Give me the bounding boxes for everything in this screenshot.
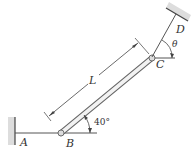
angle-arc-theta [162, 40, 172, 58]
label-d: D [175, 23, 185, 36]
label-angle-b: 40° [94, 117, 110, 127]
wall-support-a [8, 117, 15, 145]
pin-c [149, 55, 155, 61]
label-length: L [88, 74, 96, 87]
cable-cd [152, 14, 176, 57]
label-theta: θ [172, 39, 178, 49]
label-c: C [156, 58, 165, 71]
diagram-canvas: A B C D θ L 40° [0, 0, 195, 155]
dimension-l [44, 38, 149, 121]
label-a: A [19, 136, 28, 149]
pin-b [58, 130, 64, 136]
label-b: B [65, 137, 74, 150]
ceiling-support-d [166, 2, 191, 21]
